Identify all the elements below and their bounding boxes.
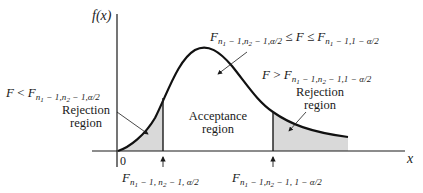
left-rejection-pointer-icon [117, 112, 148, 134]
right-rejection-label: Rejection region [287, 86, 353, 112]
acceptance-label: Acceptance region [178, 110, 258, 136]
acceptance-condition: Fn1 − 1,n2 − 1,α/2 ≤ F ≤ Fn1 − 1,1 − α/2 [210, 30, 379, 43]
left-rejection-label: Rejection region [56, 104, 116, 130]
origin-label: 0 [120, 155, 126, 167]
y-axis-label: f(x) [92, 9, 111, 23]
left-rejection-shade [118, 98, 163, 151]
right-rejection-condition: F > Fn1 − 1,n2 − 1,1 − α/2 [262, 68, 371, 81]
x-axis-label: x [407, 152, 413, 166]
left-rejection-condition: F < Fn1 − 1,n2 − 1,α/2 [6, 86, 100, 99]
upper-critical-value-label: Fn1 − 1,n2 − 1, 1 − α/2 [232, 171, 322, 184]
lower-critical-value-label: Fn1 − 1, n2 − 1, α/2 [122, 171, 199, 184]
